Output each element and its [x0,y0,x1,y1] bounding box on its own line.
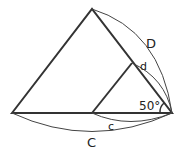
label-angle: 50° [139,99,160,113]
arc-C [12,113,172,132]
angle-arc [160,103,164,113]
arc-c [92,113,172,122]
label-c: c [108,120,114,133]
outer-triangle [12,9,172,113]
similar-triangles-diagram: D d 50° c C [0,0,182,157]
label-C: C [87,135,96,150]
inner-triangle [92,63,132,113]
label-D: D [146,36,156,51]
label-d: d [140,60,147,73]
